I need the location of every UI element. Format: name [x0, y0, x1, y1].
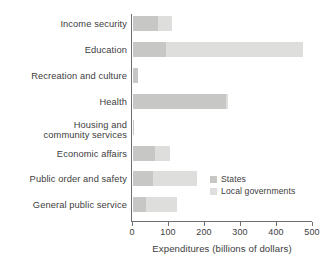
- legend-swatch-local-governments: [210, 188, 217, 195]
- chart-row: Health: [0, 94, 325, 120]
- bar-segment-states: [133, 68, 138, 83]
- legend-item-local-governments: Local governments: [210, 185, 295, 197]
- stacked-bar: [133, 120, 134, 135]
- bar-segment-states: [133, 42, 166, 57]
- x-axis-title: Expenditures (billions of dollars): [131, 243, 313, 254]
- stacked-bar: [133, 171, 197, 186]
- x-tick-label-100: 100: [160, 227, 176, 237]
- chart-row: Income security: [0, 16, 325, 42]
- category-label: General public service: [3, 200, 127, 211]
- bar-segment-states: [133, 120, 134, 135]
- category-label: Health: [3, 97, 127, 108]
- chart-row: Recreation and culture: [0, 68, 325, 94]
- bar-segment-local-governments: [153, 171, 197, 186]
- chart-row: Economic affairs: [0, 146, 325, 172]
- chart-row: Education: [0, 42, 325, 68]
- stacked-bar: [133, 68, 138, 83]
- legend-label-local-governments: Local governments: [221, 186, 295, 196]
- category-label: Housing andcommunity services: [3, 120, 127, 141]
- bar-segment-local-governments: [155, 146, 170, 161]
- category-label: Income security: [3, 19, 127, 30]
- category-label: Public order and safety: [3, 174, 127, 185]
- x-tick-label-400: 400: [268, 227, 284, 237]
- bar-segment-states: [133, 197, 146, 212]
- stacked-bar: [133, 146, 170, 161]
- bar-segment-local-governments: [166, 42, 303, 57]
- chart-legend: States Local governments: [210, 173, 295, 197]
- x-tick-label-200: 200: [196, 227, 212, 237]
- bar-segment-local-governments: [158, 16, 172, 31]
- bar-segment-states: [133, 94, 226, 109]
- bar-segment-states: [133, 171, 153, 186]
- stacked-bar: [133, 16, 172, 31]
- category-label: Education: [3, 45, 127, 56]
- x-tick-label-300: 300: [232, 227, 248, 237]
- category-label: Economic affairs: [3, 149, 127, 160]
- bar-chart: 0100200300400500 Income securityEducatio…: [0, 0, 325, 269]
- legend-label-states: States: [221, 174, 246, 184]
- bar-segment-local-governments: [226, 94, 228, 109]
- legend-swatch-states: [210, 176, 217, 183]
- legend-item-states: States: [210, 173, 295, 185]
- stacked-bar: [133, 197, 177, 212]
- chart-row: General public service: [0, 197, 325, 223]
- category-label: Recreation and culture: [3, 71, 127, 82]
- bar-segment-states: [133, 146, 155, 161]
- chart-row: Housing andcommunity services: [0, 120, 325, 146]
- stacked-bar: [133, 42, 303, 57]
- x-tick-label-0: 0: [129, 227, 134, 237]
- stacked-bar: [133, 94, 228, 109]
- x-tick-label-500: 500: [304, 227, 320, 237]
- bar-segment-local-governments: [146, 197, 177, 212]
- bar-segment-states: [133, 16, 158, 31]
